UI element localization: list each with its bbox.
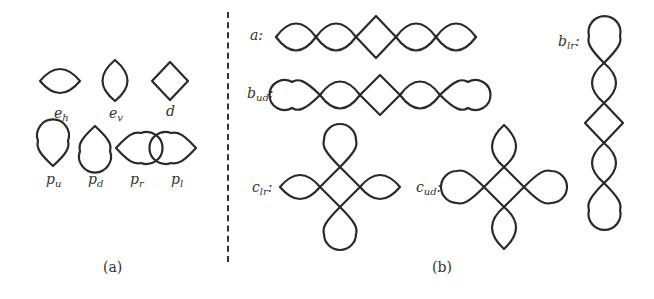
label-pattern-c-lr: clr: xyxy=(252,180,273,197)
label-d: d xyxy=(166,104,175,118)
label-p-l: pl xyxy=(171,172,183,189)
label-p-u: pu xyxy=(46,172,61,189)
pattern-b-ud-shape xyxy=(270,75,491,115)
label-p-r: pr xyxy=(130,172,144,189)
pattern-b-lr-shape xyxy=(585,16,623,230)
primitive-p-l-shape xyxy=(149,132,196,164)
label-e-v: ev xyxy=(109,106,123,123)
caption-b: (b) xyxy=(432,259,452,275)
pattern-c-ud-shape xyxy=(441,125,567,249)
primitive-p-d-shape xyxy=(79,126,111,173)
figure-drawing xyxy=(0,0,654,299)
pattern-a-shape xyxy=(276,16,476,58)
label-pattern-b-ud: bud: xyxy=(247,86,274,103)
primitive-e-v-shape xyxy=(103,60,128,101)
primitive-p-r-shape xyxy=(116,132,163,164)
primitive-e-h-shape xyxy=(40,69,80,93)
label-p-d: pd xyxy=(88,172,103,189)
kolam-figure: eh ev d pu pd pr pl (a) a: bud: clr: cud… xyxy=(0,0,654,299)
pattern-c-lr-shape xyxy=(280,124,400,250)
panel-divider xyxy=(227,12,229,262)
label-pattern-b-lr: blr: xyxy=(558,34,580,51)
caption-a: (a) xyxy=(103,259,122,275)
primitive-p-u-shape xyxy=(37,119,69,166)
primitive-d-shape xyxy=(152,62,188,100)
label-e-h: eh xyxy=(54,106,69,123)
label-pattern-c-ud: cud: xyxy=(416,180,441,197)
label-pattern-a: a: xyxy=(250,28,263,42)
